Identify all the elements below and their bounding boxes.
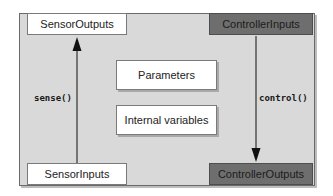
sensor-inputs-label: SensorInputs xyxy=(45,168,110,180)
control-function-label: control() xyxy=(259,93,308,103)
parameters-label: Parameters xyxy=(138,69,195,81)
controller-inputs-label: ControllerInputs xyxy=(222,18,300,30)
internal-variables-label: Internal variables xyxy=(125,114,209,126)
sense-function-label: sense() xyxy=(34,93,72,103)
parameters-box: Parameters xyxy=(116,60,217,90)
sense-arrow xyxy=(73,37,82,163)
controller-outputs-label: ControllerOutputs xyxy=(218,168,304,180)
controller-inputs-port: ControllerInputs xyxy=(209,13,313,35)
sensor-outputs-label: SensorOutputs xyxy=(40,18,113,30)
internal-variables-box: Internal variables xyxy=(116,105,217,135)
controller-outputs-port: ControllerOutputs xyxy=(209,163,313,185)
sensor-outputs-port: SensorOutputs xyxy=(27,13,127,35)
sensor-inputs-port: SensorInputs xyxy=(27,163,127,185)
